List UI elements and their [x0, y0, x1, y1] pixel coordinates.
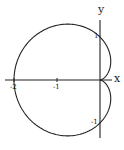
- cardioid-plot: [0, 0, 124, 150]
- tick-label-y-neg1: -1: [91, 119, 98, 126]
- tick-label-y-pos1: 1: [94, 33, 98, 40]
- tick-label-x-neg1: -1: [53, 84, 60, 91]
- y-axis-label: y: [98, 4, 104, 15]
- tick-label-x-neg2: -2: [10, 84, 17, 91]
- x-axis-label: x: [114, 73, 120, 84]
